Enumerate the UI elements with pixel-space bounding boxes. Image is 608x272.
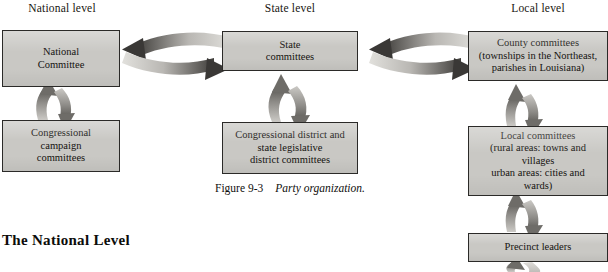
node-county-committees-label: County committees (townships in the Nort… xyxy=(476,37,600,74)
arrow-national-to-state-left xyxy=(122,33,232,60)
arrow-county-to-state-right xyxy=(369,52,476,80)
node-national-committee-label: National Committee xyxy=(35,46,88,71)
node-congressional-district-committees[interactable]: Congressional district and state legisla… xyxy=(222,122,358,174)
column-label-local-level: Local level xyxy=(478,2,598,14)
node-county-committees[interactable]: County committees (townships in the Nort… xyxy=(468,31,608,81)
figure-caption-title: Party organization. xyxy=(263,182,365,194)
figure-caption-label: Figure 9-3 xyxy=(215,182,263,194)
arrow-state-to-county-left xyxy=(369,33,478,60)
arrow-state-up xyxy=(269,74,292,122)
arrow-county-up xyxy=(506,84,526,126)
node-precinct-leaders-label: Precinct leaders xyxy=(502,241,575,253)
node-congressional-district-committees-label: Congressional district and state legisla… xyxy=(232,129,348,166)
node-local-committees-label: Local committees (rural areas: towns and… xyxy=(487,130,589,192)
node-state-committees-label: State committees xyxy=(263,39,317,64)
column-label-national-level: National level xyxy=(2,2,122,14)
node-state-committees[interactable]: State committees xyxy=(222,31,358,71)
node-precinct-leaders[interactable]: Precinct leaders xyxy=(468,233,608,262)
section-heading-the-national-level: The National Level xyxy=(2,232,130,249)
node-congressional-campaign-committees[interactable]: Congressional campaign committees xyxy=(2,120,120,172)
node-congressional-campaign-committees-label: Congressional campaign committees xyxy=(28,127,94,164)
arrow-state-to-national-right xyxy=(122,52,229,80)
node-national-committee[interactable]: National Committee xyxy=(2,30,120,87)
node-local-committees[interactable]: Local committees (rural areas: towns and… xyxy=(468,126,608,196)
column-label-state-level: State level xyxy=(230,2,350,14)
arrow-precinct-down-cropped xyxy=(523,262,540,272)
arrow-local-up xyxy=(506,190,526,232)
figure-caption: Figure 9-3Party organization. xyxy=(215,182,365,194)
